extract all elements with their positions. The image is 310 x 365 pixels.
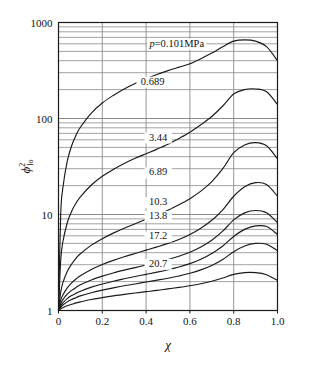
x-tick-label: 0 bbox=[56, 315, 62, 327]
x-tick-label: 0.4 bbox=[139, 315, 153, 327]
curve-label-2: 3.44 bbox=[149, 132, 168, 143]
chart-figure: 00.20.40.60.81.0 1101001000 p=0.101MPa0.… bbox=[0, 0, 310, 365]
log-linear-two-phase-multiplier-chart: 00.20.40.60.81.0 1101001000 p=0.101MPa0.… bbox=[0, 0, 310, 365]
x-tick-label: 1.0 bbox=[271, 315, 285, 327]
x-tick-label: 0.2 bbox=[95, 315, 109, 327]
y-tick-label: 1 bbox=[47, 305, 53, 317]
curve-label-1: 0.689 bbox=[141, 76, 165, 87]
x-tick-label: 0.6 bbox=[183, 315, 197, 327]
curve-label-0: p=0.101MPa bbox=[148, 38, 204, 49]
x-tick-label: 0.8 bbox=[227, 315, 241, 327]
curve-label-5: 13.8 bbox=[149, 210, 167, 221]
curve-label-7: 20.7 bbox=[149, 258, 167, 269]
y-tick-label: 1000 bbox=[31, 17, 54, 29]
curve-label-4: 10.3 bbox=[149, 196, 167, 207]
y-tick-label: 100 bbox=[36, 113, 53, 125]
x-axis-title: χ bbox=[163, 337, 171, 352]
curve-label-6: 17.2 bbox=[149, 230, 167, 241]
y-tick-label: 10 bbox=[42, 209, 54, 221]
curve-label-3: 6.89 bbox=[149, 166, 167, 177]
